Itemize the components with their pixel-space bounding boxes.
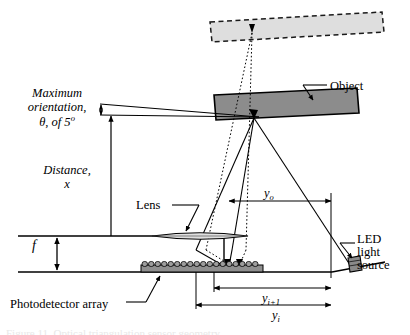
y-image-next-label: yi+1 — [262, 291, 280, 305]
y-image-next-subscript: i+1 — [268, 297, 280, 307]
optical-triangulation-diagram: Maximum orientation, θ, of 5o Distance, … — [0, 0, 410, 335]
object-label: Object — [330, 79, 363, 93]
max-orientation-line2: orientation, — [8, 100, 106, 114]
y-image-next-dimension — [214, 272, 331, 292]
y-object-label: yo — [264, 186, 274, 200]
distance-variable-x: x — [26, 177, 108, 191]
y-image-next-symbol: y — [262, 291, 268, 305]
max-orientation-label: Maximum orientation, θ, of 5o — [8, 86, 106, 129]
photodetector-array-label: Photodetector array — [10, 297, 108, 311]
photodetector-array — [141, 262, 263, 273]
max-orientation-theta: θ, of 5 — [39, 115, 71, 129]
max-orientation-line3: θ, of 5o — [8, 114, 106, 129]
degree-symbol: o — [71, 113, 75, 123]
focal-length-label: f — [32, 238, 36, 254]
ray-bundle-solid — [196, 109, 352, 268]
y-image-label: yi — [272, 308, 280, 322]
y-object-symbol: y — [264, 186, 270, 200]
ray-bundle-dotted — [206, 24, 255, 268]
y-image-symbol: y — [272, 308, 278, 322]
y-image-subscript: i — [278, 314, 280, 324]
distance-line1: Distance, — [26, 163, 108, 177]
distance-label: Distance, x — [26, 163, 108, 191]
object-ghost — [210, 12, 384, 42]
led-light-source-label: LED light source — [357, 233, 390, 272]
lens-label: Lens — [136, 198, 160, 212]
figure-caption-clipped: Figure 11. Optical triangulation sensor … — [6, 327, 396, 335]
max-orientation-line1: Maximum — [8, 86, 106, 100]
y-object-subscript: o — [270, 192, 274, 202]
led-line3: source — [357, 259, 390, 272]
